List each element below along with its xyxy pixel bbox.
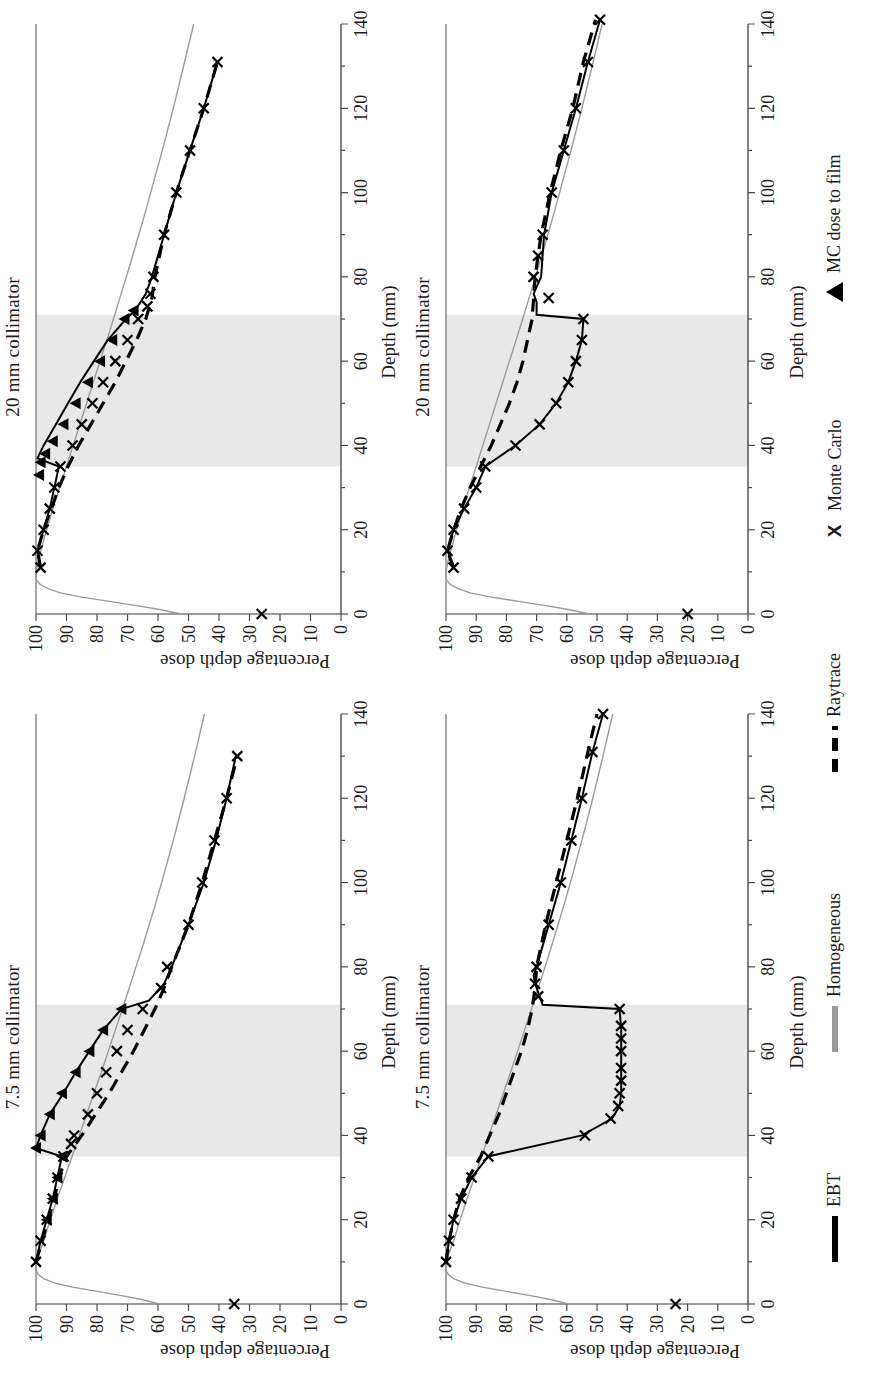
svg-text:70: 70 [527, 625, 547, 643]
svg-text:0: 0 [738, 625, 758, 634]
svg-text:80: 80 [496, 1315, 516, 1333]
shaded-band [36, 315, 341, 467]
svg-text:20: 20 [758, 521, 778, 539]
svg-text:140: 140 [758, 701, 778, 728]
legend-label-ebt: EBT [824, 1173, 845, 1207]
svg-text:20: 20 [351, 521, 371, 539]
svg-text:120: 120 [351, 785, 371, 812]
svg-text:40: 40 [758, 1126, 778, 1144]
svg-text:0: 0 [351, 610, 371, 619]
figure-canvas: 7.5 mm collimator Percentage depth dose … [0, 0, 876, 1382]
svg-text:90: 90 [57, 625, 77, 643]
panel-chart-d: 20 mm collimator Percentage depth dose D… [412, 2, 812, 692]
svg-text:70: 70 [118, 1315, 138, 1333]
svg-text:100: 100 [758, 869, 778, 896]
svg-text:80: 80 [758, 268, 778, 286]
svg-text:80: 80 [496, 625, 516, 643]
legend-label-mc-dose-to-film: MC dose to film [824, 154, 845, 273]
svg-text:70: 70 [118, 625, 138, 643]
svg-text:30: 30 [647, 1315, 667, 1333]
svg-text:20: 20 [678, 1315, 698, 1333]
panel-b-plot: 0204060801001201400102030405060708090100 [22, 2, 397, 692]
svg-text:140: 140 [351, 11, 371, 38]
x-marker [232, 751, 242, 761]
svg-text:50: 50 [587, 625, 607, 643]
svg-text:90: 90 [57, 1315, 77, 1333]
svg-text:80: 80 [758, 958, 778, 976]
figure-rotation-wrapper: 7.5 mm collimator Percentage depth dose … [0, 0, 876, 1382]
svg-text:20: 20 [678, 625, 698, 643]
svg-text:10: 10 [708, 1315, 728, 1333]
svg-text:30: 30 [240, 1315, 260, 1333]
x-marker [538, 230, 548, 240]
svg-text:100: 100 [26, 625, 46, 652]
panel-chart-a: 7.5 mm collimator Percentage depth dose … [0, 692, 410, 1382]
svg-text:30: 30 [647, 625, 667, 643]
solid-line-icon [828, 1216, 842, 1262]
svg-text:80: 80 [351, 958, 371, 976]
legend-item-mc-dose-to-film: MC dose to film [824, 154, 845, 302]
panel-c-title: 7.5 mm collimator [412, 692, 434, 1382]
legend-item-raytrace: Raytrace [824, 653, 845, 772]
svg-text:100: 100 [758, 179, 778, 206]
svg-text:40: 40 [209, 1315, 229, 1333]
x-marker [471, 483, 481, 493]
svg-text:140: 140 [351, 701, 371, 728]
svg-text:10: 10 [301, 625, 321, 643]
svg-text:120: 120 [351, 95, 371, 122]
triangle-marker [33, 469, 44, 481]
svg-text:120: 120 [758, 785, 778, 812]
series-raytrace [448, 20, 596, 568]
svg-text:60: 60 [148, 625, 168, 643]
svg-text:50: 50 [179, 1315, 199, 1333]
svg-text:40: 40 [351, 436, 371, 454]
svg-text:60: 60 [148, 1315, 168, 1333]
svg-text:40: 40 [209, 625, 229, 643]
svg-text:140: 140 [758, 11, 778, 38]
svg-text:90: 90 [466, 1315, 486, 1333]
dashed-line-icon [828, 726, 842, 772]
panel-d-title: 20 mm collimator [412, 2, 434, 692]
svg-text:20: 20 [270, 1315, 290, 1333]
triangle-marker-icon [826, 282, 843, 302]
svg-text:0: 0 [738, 1315, 758, 1324]
panel-chart-c: 7.5 mm collimator Percentage depth dose … [412, 692, 812, 1382]
svg-text:40: 40 [617, 1315, 637, 1333]
panel-c-plot: 0204060801001201400102030405060708090100 [432, 692, 804, 1382]
legend-label-monte-carlo: Monte Carlo [825, 420, 846, 512]
svg-text:100: 100 [351, 869, 371, 896]
svg-text:10: 10 [301, 1315, 321, 1333]
legend-item-ebt: EBT [824, 1173, 845, 1262]
svg-text:70: 70 [527, 1315, 547, 1333]
svg-text:40: 40 [617, 625, 637, 643]
svg-text:40: 40 [758, 436, 778, 454]
x-marker-icon: X [824, 520, 846, 542]
svg-text:80: 80 [351, 268, 371, 286]
svg-text:20: 20 [758, 1211, 778, 1229]
panel-b-title: 20 mm collimator [2, 2, 24, 692]
svg-text:100: 100 [26, 1315, 46, 1342]
svg-text:80: 80 [87, 625, 107, 643]
svg-text:100: 100 [436, 1315, 456, 1342]
gray-line-icon [828, 1006, 842, 1052]
svg-text:100: 100 [436, 625, 456, 652]
figure-legend: EBT Homogeneous Raytrace X Monte Carlo M… [808, 0, 870, 1382]
panel-d-plot: 0204060801001201400102030405060708090100 [432, 2, 804, 692]
svg-text:0: 0 [758, 610, 778, 619]
svg-text:60: 60 [758, 1042, 778, 1060]
svg-text:0: 0 [351, 1300, 371, 1309]
svg-text:60: 60 [351, 352, 371, 370]
x-marker [544, 293, 554, 303]
panel-a-plot: 0204060801001201400102030405060708090100 [22, 692, 397, 1382]
svg-text:120: 120 [758, 95, 778, 122]
svg-text:20: 20 [270, 625, 290, 643]
svg-text:80: 80 [87, 1315, 107, 1333]
panel-chart-b: 20 mm collimator Percentage depth dose D… [0, 2, 410, 692]
legend-label-homogeneous: Homogeneous [824, 893, 845, 997]
svg-text:0: 0 [331, 1315, 351, 1324]
legend-item-homogeneous: Homogeneous [824, 893, 845, 1052]
svg-text:60: 60 [557, 625, 577, 643]
legend-label-raytrace: Raytrace [824, 653, 845, 717]
svg-text:20: 20 [351, 1211, 371, 1229]
svg-text:40: 40 [351, 1126, 371, 1144]
